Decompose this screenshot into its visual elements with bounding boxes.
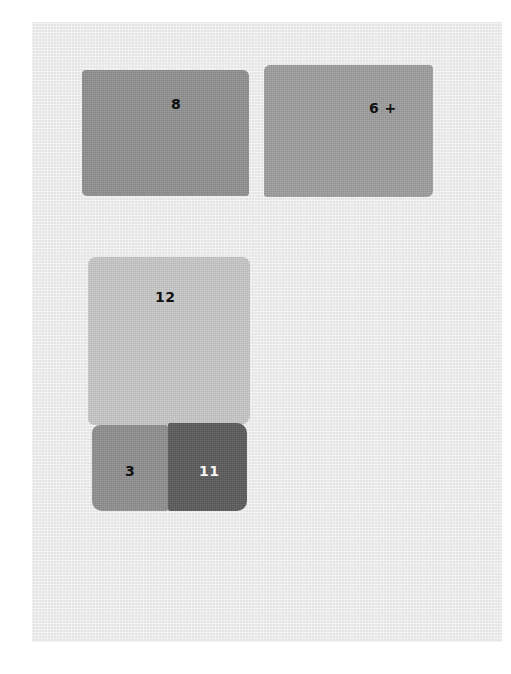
swatch-label-6-plus: 6 + xyxy=(369,101,397,115)
swatch-label-12: 12 xyxy=(155,290,175,304)
color-swatch-6-plus: 6 + xyxy=(264,65,433,197)
swatch-label-8: 8 xyxy=(171,97,181,111)
swatch-label-11: 11 xyxy=(199,464,219,478)
color-swatch-12: 12 xyxy=(88,257,250,425)
page: 8 6 + 12 3 11 xyxy=(0,0,511,674)
color-swatch-8: 8 xyxy=(82,70,249,196)
color-swatch-11: 11 xyxy=(168,423,247,511)
swatch-label-3: 3 xyxy=(125,464,135,478)
color-swatch-3: 3 xyxy=(92,425,168,511)
